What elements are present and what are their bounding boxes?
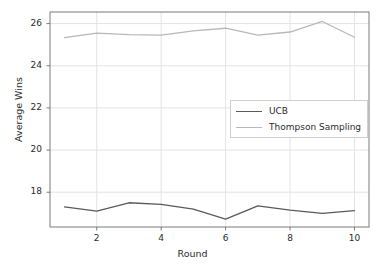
x-tick-label: 6 (214, 233, 238, 243)
y-tick-label: 18 (18, 186, 42, 196)
y-axis-label: Average Wins (13, 50, 24, 170)
x-tick-label: 4 (149, 233, 173, 243)
legend-item-ucb: UCB (236, 103, 288, 119)
legend-label-thompson-sampling: Thompson Sampling (269, 122, 361, 132)
chart-figure: 1820222426 246810 Round Average Wins UCB… (0, 0, 385, 268)
x-tick-label: 10 (343, 233, 367, 243)
legend-item-thompson-sampling: Thompson Sampling (236, 119, 361, 135)
legend-swatch-thompson-sampling (236, 127, 262, 128)
x-tick-label: 2 (85, 233, 109, 243)
legend-label-ucb: UCB (269, 106, 288, 116)
x-axis-label: Round (0, 248, 385, 259)
chart-legend: UCB Thompson Sampling (230, 100, 368, 138)
y-tick-label: 26 (18, 18, 42, 28)
x-tick-label: 8 (278, 233, 302, 243)
legend-swatch-ucb (236, 111, 262, 112)
